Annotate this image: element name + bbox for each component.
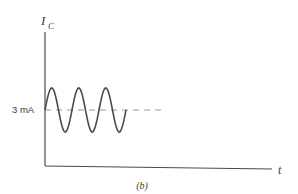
transistor-current-diagram: I C t 3 mA (b) xyxy=(0,0,298,194)
y-axis-label: I xyxy=(40,13,46,28)
x-axis-label: t xyxy=(278,163,282,177)
y-axis-subscript: C xyxy=(48,21,55,31)
x-axis xyxy=(45,166,272,169)
figure-caption: (b) xyxy=(136,180,148,192)
dc-level-label: 3 mA xyxy=(12,104,35,115)
